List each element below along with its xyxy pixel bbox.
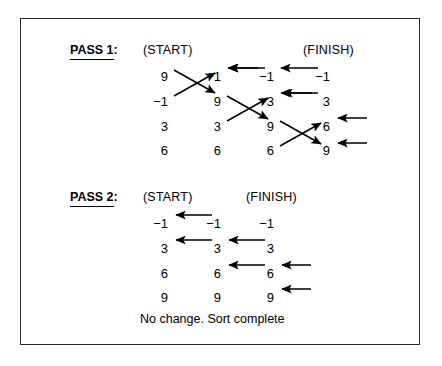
p1c2-row1: −1 <box>206 70 221 83</box>
pass-1-finish-header: (FINISH) <box>303 44 354 57</box>
pass-1-label: PASS 1 <box>70 43 114 60</box>
p1c4-row2: 3 <box>323 95 330 108</box>
p2c2-row2: 3 <box>214 242 221 255</box>
p1c3-row1: −1 <box>259 70 274 83</box>
p1c4-row4: 9 <box>323 144 330 157</box>
p2c3-row1: −1 <box>259 217 274 230</box>
sort-complete-caption: No change. Sort complete <box>140 313 285 326</box>
p1c3-row4: 6 <box>267 144 274 157</box>
p1c2-row3: 3 <box>214 120 221 133</box>
p2c2-row4: 9 <box>214 291 221 304</box>
p1c1-row4: 6 <box>161 144 168 157</box>
p1c2-row2: 9 <box>214 95 221 108</box>
p2c2-row1: −1 <box>206 217 221 230</box>
p2c3-row3: 6 <box>267 267 274 280</box>
pass-2-finish-header: (FINISH) <box>246 191 297 204</box>
p1c3-row2: 3 <box>267 95 274 108</box>
p1c2-row4: 6 <box>214 144 221 157</box>
p1c1-row2: −1 <box>153 95 168 108</box>
p1c1-row3: 3 <box>161 120 168 133</box>
pass-1-heading: PASS 1: <box>70 44 118 57</box>
p2c3-row2: 3 <box>267 242 274 255</box>
p1c1-row1: 9 <box>161 70 168 83</box>
p2c2-row3: 6 <box>214 267 221 280</box>
p2c1-row2: 3 <box>161 242 168 255</box>
pass-1-colon: : <box>114 43 118 57</box>
p2c1-row1: −1 <box>153 217 168 230</box>
p1c3-row3: 9 <box>267 120 274 133</box>
p1c4-row1: −1 <box>315 70 330 83</box>
p2c3-row4: 9 <box>267 291 274 304</box>
pass-2-colon: : <box>114 190 118 204</box>
p2c1-row4: 9 <box>161 291 168 304</box>
pass-2-label: PASS 2 <box>70 190 114 207</box>
p2c1-row3: 6 <box>161 267 168 280</box>
pass-2-start-header: (START) <box>143 191 193 204</box>
pass-2-heading: PASS 2: <box>70 191 118 204</box>
p1c4-row3: 6 <box>323 120 330 133</box>
pass-1-start-header: (START) <box>143 44 193 57</box>
